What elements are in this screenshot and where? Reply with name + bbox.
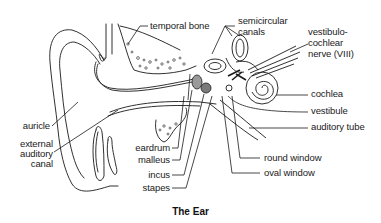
- auricle-outline: [50, 30, 118, 191]
- label-auricle: auricle: [0, 121, 50, 132]
- label-oval-window: oval window: [264, 168, 315, 179]
- label-stapes: stapes: [120, 183, 170, 194]
- leader-oval-window: [222, 96, 260, 173]
- label-incus: incus: [120, 170, 170, 181]
- malleus-shape: [192, 75, 202, 89]
- label-external-line3: canal: [0, 159, 53, 170]
- label-cochlea: cochlea: [311, 89, 343, 100]
- label-vestibulocochlear-line2: cochlear: [308, 38, 343, 49]
- ear-canal: [95, 62, 196, 89]
- leader-round-window: [232, 96, 260, 158]
- label-malleus: malleus: [120, 155, 170, 166]
- label-temporal-bone: temporal bone: [150, 21, 209, 32]
- label-semicircular-canals-line2: canals: [238, 27, 265, 38]
- eardrum-shape: [188, 74, 190, 100]
- label-vestibulocochlear-line1: vestibulo-: [308, 27, 348, 38]
- label-vestibulocochlear-line3: nerve (VIII): [308, 49, 354, 60]
- leader-external-canal: [54, 110, 118, 152]
- label-eardrum: eardrum: [120, 143, 170, 154]
- label-semicircular-canals-line1: semicircular: [238, 16, 287, 27]
- incus-shape: [201, 83, 211, 93]
- figure-caption: The Ear: [0, 206, 381, 217]
- label-round-window: round window: [264, 153, 321, 164]
- label-auditory-tube: auditory tube: [311, 122, 365, 133]
- label-vestibule: vestibule: [311, 106, 348, 117]
